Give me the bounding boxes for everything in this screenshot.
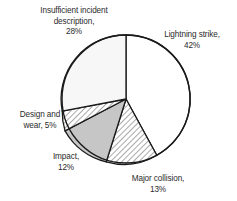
pie-label-design-and-wear: Design and wear, 5% <box>6 110 74 131</box>
pie-label-major-collision: Major collision, 13% <box>112 174 204 195</box>
pie-label-impact: Impact, 12% <box>36 152 96 173</box>
pie-label-insufficient-incident-description: Insufficient incident description, 28% <box>18 6 130 38</box>
pie-chart-figure: Insufficient incident description, 28% L… <box>0 0 237 201</box>
pie-label-lightning-strike: Lightning strike, 42% <box>150 30 234 51</box>
pie-slice-insufficient-incident-description[interactable] <box>61 35 126 111</box>
